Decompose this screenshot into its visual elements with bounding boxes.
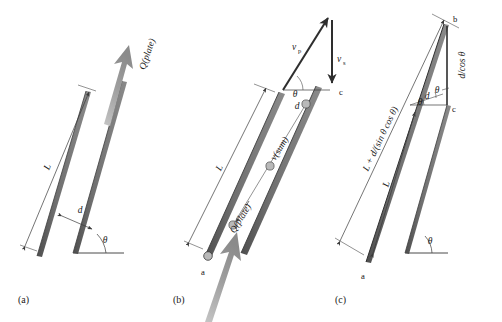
panel-b-point-a: a bbox=[201, 267, 205, 277]
panel-c-angle-upper-label: θ bbox=[435, 85, 440, 95]
panel-c-point-b: b bbox=[453, 14, 457, 24]
diagram-svg: θ L d Q(plate) (a) bbox=[0, 0, 502, 322]
panel-a-caption: (a) bbox=[18, 294, 29, 306]
panel-c-angle-lower-label: θ bbox=[418, 97, 423, 107]
panel-c-caption: (c) bbox=[335, 294, 346, 306]
panel-b-caption: (b) bbox=[173, 294, 185, 306]
panel-c-angle-label: θ bbox=[428, 236, 433, 246]
panel-a-angle-label: θ bbox=[103, 235, 108, 245]
bubble-marker-origin bbox=[204, 252, 213, 261]
panel-a-gap-label: d bbox=[78, 205, 83, 215]
panel-b-vs-subscript: s bbox=[343, 59, 346, 66]
panel-b-point-c: c bbox=[339, 87, 343, 97]
bubble-marker bbox=[266, 162, 274, 170]
panel-c-point-a: a bbox=[361, 271, 365, 281]
panel-c-gap-label: d bbox=[425, 91, 430, 101]
bubble-marker bbox=[302, 100, 310, 108]
figure-root: θ L d Q(plate) (a) bbox=[0, 0, 502, 322]
panel-b-gap-label: d bbox=[295, 101, 300, 111]
panel-c-point-c: c bbox=[452, 104, 456, 114]
panel-c-hypotenuse-label: d/cos θ bbox=[457, 51, 467, 78]
panel-b-angle-label: θ bbox=[293, 89, 298, 99]
